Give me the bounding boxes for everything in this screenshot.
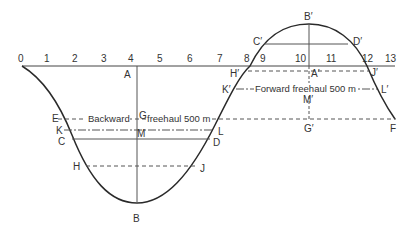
label-H: H xyxy=(73,161,80,172)
tick-9: 9 xyxy=(260,53,266,64)
tick-7: 7 xyxy=(217,53,223,64)
tick-5: 5 xyxy=(157,53,163,64)
tick-11: 11 xyxy=(326,53,337,64)
label-Gprime: G′ xyxy=(304,123,314,134)
tick-1: 1 xyxy=(44,53,50,64)
label-M: M xyxy=(137,128,145,139)
axis-tick-labels: 0 1 2 3 4 5 6 7 8 9 10 11 12 13 xyxy=(18,53,397,64)
tick-6: 6 xyxy=(187,53,193,64)
tick-0: 0 xyxy=(18,53,24,64)
label-Mprime: M′ xyxy=(303,94,313,105)
label-Dprime: D′ xyxy=(353,36,362,47)
annotation-forward-freehaul: Forward freehaul 500 m xyxy=(255,83,356,94)
label-C: C xyxy=(58,136,65,147)
tick-13: 13 xyxy=(385,53,397,64)
label-J: J xyxy=(200,163,205,174)
tick-2: 2 xyxy=(72,53,78,64)
label-B: B xyxy=(133,213,140,224)
label-Lprime: L′ xyxy=(381,84,389,95)
label-A: A xyxy=(124,69,131,80)
tick-4: 4 xyxy=(128,53,134,64)
tick-10: 10 xyxy=(295,53,307,64)
label-Jprime: J′ xyxy=(371,67,378,78)
label-Cprime: C′ xyxy=(253,36,262,47)
annotation-backward-freehaul: freehaul 500 m xyxy=(147,113,210,124)
label-D: D xyxy=(213,137,220,148)
tick-3: 3 xyxy=(101,53,107,64)
tick-8: 8 xyxy=(244,53,250,64)
label-Bprime: B′ xyxy=(304,11,313,22)
label-Aprime: A′ xyxy=(311,68,320,79)
label-Hprime: H′ xyxy=(230,68,239,79)
label-G: G xyxy=(139,110,147,121)
label-L: L xyxy=(218,126,224,137)
mass-haul-diagram: 0 1 2 3 4 5 6 7 8 9 10 11 12 13 Backward… xyxy=(0,0,411,236)
label-F: F xyxy=(390,123,396,134)
label-Kprime: K′ xyxy=(222,84,231,95)
annotation-backward: Backward xyxy=(88,113,130,124)
label-K: K xyxy=(56,125,63,136)
label-E: E xyxy=(52,113,59,124)
